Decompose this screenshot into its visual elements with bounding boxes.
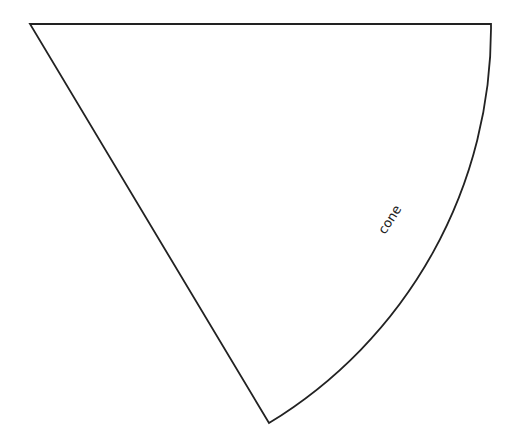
sector-outline — [30, 24, 491, 423]
cone-net-sector — [0, 0, 514, 445]
diagram-canvas: cone — [0, 0, 514, 445]
